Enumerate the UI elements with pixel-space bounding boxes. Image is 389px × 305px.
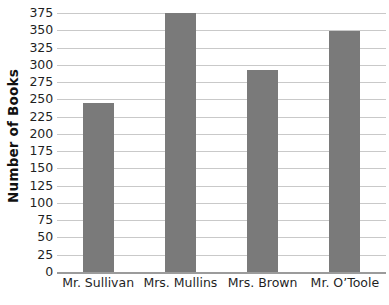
plot-area (57, 0, 386, 305)
bar[interactable] (165, 13, 196, 272)
y-tick-label: 25 (5, 249, 53, 262)
y-tick-label: 200 (5, 128, 53, 141)
y-tick-label: 275 (5, 76, 53, 89)
y-axis-tick-labels: 0255075100125150175200225250275300325350… (0, 0, 53, 305)
bar[interactable] (329, 31, 360, 272)
y-tick-label: 225 (5, 111, 53, 124)
x-tick-label: Mr. Sullivan (57, 276, 139, 290)
y-tick-label: 300 (5, 59, 53, 72)
y-tick-label: 0 (5, 266, 53, 279)
y-tick-label: 150 (5, 162, 53, 175)
axis-baseline (57, 272, 386, 274)
bar[interactable] (83, 103, 114, 272)
x-tick-label: Mrs. Brown (222, 276, 304, 290)
gridline (57, 13, 386, 14)
bar-chart: Number of Books 025507510012515017520022… (0, 0, 389, 305)
y-tick-label: 50 (5, 231, 53, 244)
x-tick-label: Mr. O’Toole (304, 276, 386, 290)
x-axis-tick-labels: Mr. SullivanMrs. MullinsMrs. BrownMr. O’… (57, 276, 386, 300)
y-tick-label: 75 (5, 214, 53, 227)
y-tick-label: 325 (5, 42, 53, 55)
y-tick-label: 125 (5, 180, 53, 193)
y-tick-label: 100 (5, 197, 53, 210)
y-tick-label: 350 (5, 24, 53, 37)
bar[interactable] (247, 70, 278, 272)
y-tick-label: 375 (5, 7, 53, 20)
y-tick-label: 175 (5, 145, 53, 158)
y-tick-label: 250 (5, 93, 53, 106)
x-tick-label: Mrs. Mullins (139, 276, 221, 290)
